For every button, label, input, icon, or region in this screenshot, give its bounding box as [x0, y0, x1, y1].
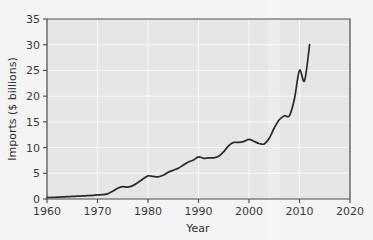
imports-line-chart: 05101520253035 1960197019801990200020102… [0, 0, 373, 240]
y-axis-title: Imports ($ billions) [6, 57, 19, 160]
tick-label-y: 30 [26, 39, 40, 52]
tick-label-x: 1990 [185, 205, 213, 218]
x-axis-title: Year [185, 222, 210, 235]
tick-label-y: 15 [26, 116, 40, 129]
tick-label-x: 1970 [84, 205, 112, 218]
tick-label-y: 10 [26, 142, 40, 155]
tick-label-y: 25 [26, 64, 40, 77]
tick-label-y: 35 [26, 13, 40, 26]
tick-label-x: 1980 [134, 205, 162, 218]
tick-label-y: 20 [26, 90, 40, 103]
tick-label-x: 2020 [336, 205, 364, 218]
chart-container: 05101520253035 1960197019801990200020102… [0, 0, 373, 240]
tick-label-x: 2000 [235, 205, 263, 218]
tick-label-x: 1960 [33, 205, 61, 218]
tick-label-y: 5 [33, 167, 40, 180]
tick-label-x: 2010 [286, 205, 314, 218]
